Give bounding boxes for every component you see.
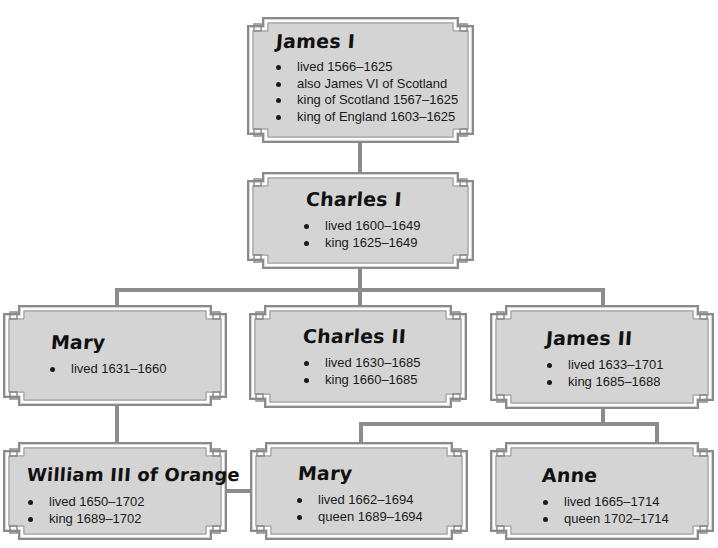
node-name: Mary	[297, 462, 353, 484]
node-william-iii: William III of Orange lived 1650–1702 ki…	[3, 442, 227, 540]
node-name: Charles I	[305, 188, 402, 210]
fact-list: lived 1630–1685 king 1660–1685	[301, 355, 420, 388]
fact-list: lived 1631–1660	[47, 361, 166, 378]
connector-james-i-to-charles-i	[358, 142, 362, 173]
fact-item: lived 1633–1701	[544, 357, 663, 374]
fact-list: lived 1665–1714 queen 1702–1714	[540, 494, 669, 527]
node-name: Charles II	[302, 325, 407, 347]
node-mary-1631: Mary lived 1631–1660	[3, 305, 227, 406]
node-james-i: James I lived 1566–1625 also James VI of…	[247, 17, 474, 143]
connector-mary-to-william	[115, 405, 119, 443]
fact-item: king 1685–1688	[544, 374, 663, 391]
node-charles-i: Charles I lived 1600–1649 king 1625–1649	[247, 172, 474, 269]
connector-to-mary-1631	[115, 288, 119, 306]
fact-list: lived 1633–1701 king 1685–1688	[544, 357, 663, 390]
node-name: Mary	[50, 331, 106, 353]
fact-item: king 1660–1685	[301, 372, 420, 389]
node-name: James I	[275, 30, 356, 52]
node-anne: Anne lived 1665–1714 queen 1702–1714	[490, 442, 714, 540]
node-name: James II	[545, 327, 633, 349]
fact-item: lived 1650–1702	[25, 494, 144, 511]
node-name: Anne	[541, 464, 598, 486]
fact-list: lived 1600–1649 king 1625–1649	[301, 218, 420, 251]
fact-list: lived 1566–1625 also James VI of Scotlan…	[273, 59, 458, 125]
fact-item: lived 1662–1694	[294, 492, 423, 509]
fact-item: king of Scotland 1567–1625	[273, 92, 458, 109]
connector-james-ii-children-bar	[359, 422, 659, 426]
fact-item: lived 1600–1649	[301, 218, 420, 235]
fact-item: queen 1689–1694	[294, 509, 423, 526]
fact-item: lived 1665–1714	[540, 494, 669, 511]
fact-item: lived 1630–1685	[301, 355, 420, 372]
connector-to-anne	[655, 422, 659, 444]
node-name: William III of Orange	[26, 464, 240, 485]
fact-item: also James VI of Scotland	[273, 76, 458, 93]
connector-marriage-william-mary	[226, 489, 252, 493]
fact-list: lived 1650–1702 king 1689–1702	[25, 494, 144, 527]
fact-item: king 1625–1649	[301, 235, 420, 252]
connector-to-james-ii	[601, 288, 605, 306]
node-mary-1662: Mary lived 1662–1694 queen 1689–1694	[250, 442, 468, 540]
fact-item: lived 1566–1625	[273, 59, 458, 76]
fact-item: king of England 1603–1625	[273, 109, 458, 126]
node-charles-ii: Charles II lived 1630–1685 king 1660–168…	[249, 305, 467, 408]
node-james-ii: James II lived 1633–1701 king 1685–1688	[490, 305, 714, 409]
fact-item: king 1689–1702	[25, 511, 144, 528]
fact-item: lived 1631–1660	[47, 361, 166, 378]
connector-to-mary-1662	[359, 422, 363, 444]
fact-list: lived 1662–1694 queen 1689–1694	[294, 492, 423, 525]
fact-item: queen 1702–1714	[540, 511, 669, 528]
connector-to-charles-ii	[358, 288, 362, 306]
